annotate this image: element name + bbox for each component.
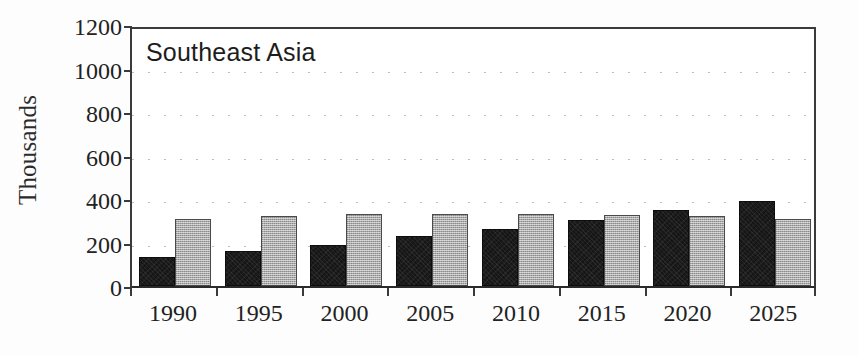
bar-light-series-1995 — [261, 216, 297, 286]
x-axis-tick-mark — [387, 288, 389, 296]
y-axis-tick-mark — [124, 200, 132, 202]
y-axis-tick-label: 1000 — [52, 59, 122, 83]
y-axis-tick-label: 600 — [52, 146, 122, 170]
y-axis-title-label: Thousands — [14, 95, 42, 205]
y-axis-tick-mark — [124, 157, 132, 159]
x-axis-tick-label-2005: 2005 — [385, 300, 475, 326]
bar-dark-series-2020 — [653, 210, 689, 286]
x-axis-tick-label-2025: 2025 — [728, 300, 818, 326]
x-axis-tick-label-2015: 2015 — [557, 300, 647, 326]
y-axis-tick-label: 400 — [52, 189, 122, 213]
bar-dark-series-2005 — [396, 236, 432, 286]
y-axis-tick-label: 800 — [52, 102, 122, 126]
gridline — [132, 115, 814, 116]
y-axis-tick-labels: 020040060080010001200 — [52, 0, 122, 356]
chart-title: Southeast Asia — [146, 38, 316, 67]
gridline — [132, 159, 814, 160]
y-axis-tick-mark — [124, 244, 132, 246]
bar-dark-series-2010 — [482, 229, 518, 286]
bar-chart: Thousands 020040060080010001200 Southeas… — [0, 0, 858, 356]
bar-dark-series-2025 — [739, 201, 775, 286]
bar-dark-series-2000 — [310, 245, 346, 286]
x-axis-tick-mark — [130, 288, 132, 296]
bar-light-series-1990 — [175, 219, 211, 286]
x-axis-tick-mark — [302, 288, 304, 296]
x-axis-tick-mark — [814, 288, 816, 296]
bar-light-series-2015 — [604, 215, 640, 286]
y-axis-title: Thousands — [0, 0, 56, 300]
bar-light-series-2000 — [346, 214, 382, 286]
y-axis-tick-label: 1200 — [52, 15, 122, 39]
bar-light-series-2005 — [432, 214, 468, 286]
bar-dark-series-1990 — [139, 257, 175, 286]
y-axis-tick-label: 200 — [52, 233, 122, 257]
bar-light-series-2025 — [775, 219, 811, 286]
gridline — [132, 72, 814, 73]
x-axis-tick-label-2000: 2000 — [299, 300, 389, 326]
y-axis-tick-mark — [124, 113, 132, 115]
x-axis-tick-label-1990: 1990 — [128, 300, 218, 326]
x-axis-tick-label-2020: 2020 — [642, 300, 732, 326]
x-axis-tick-mark — [473, 288, 475, 296]
bar-light-series-2020 — [689, 216, 725, 286]
bar-light-series-2010 — [518, 214, 554, 286]
x-axis-tick-mark — [645, 288, 647, 296]
gridline — [132, 202, 814, 203]
x-axis-tick-mark — [216, 288, 218, 296]
bar-dark-series-1995 — [225, 251, 261, 286]
plot-area: Southeast Asia — [130, 27, 816, 288]
x-axis-tick-mark — [559, 288, 561, 296]
x-axis-tick-mark — [730, 288, 732, 296]
y-axis-tick-mark — [124, 26, 132, 28]
y-axis-tick-label: 0 — [52, 276, 122, 300]
y-axis-tick-mark — [124, 70, 132, 72]
x-axis-tick-label-2010: 2010 — [471, 300, 561, 326]
x-axis-tick-label-1995: 1995 — [214, 300, 304, 326]
bar-dark-series-2015 — [568, 220, 604, 286]
